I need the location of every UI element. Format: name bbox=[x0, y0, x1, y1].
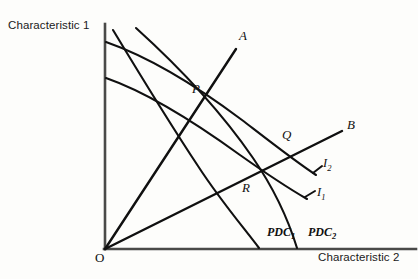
y-axis-label: Characteristic 1 bbox=[8, 19, 90, 31]
point-r-label: R bbox=[242, 180, 250, 196]
rays-group bbox=[105, 49, 342, 249]
pdc-curve-2-label: PDC2 bbox=[308, 225, 336, 241]
pdc-curves-group bbox=[113, 28, 297, 248]
axes-group bbox=[104, 24, 416, 249]
indifference-curve-i2 bbox=[106, 42, 316, 175]
pdc-curve-1 bbox=[113, 30, 259, 248]
ray-b bbox=[105, 131, 342, 249]
pdc1-base: PDC bbox=[267, 225, 291, 239]
indifference-curve-i1-label: I1 bbox=[317, 185, 325, 202]
indifference-curve-i2-label: I2 bbox=[323, 156, 331, 173]
point-p-label: P bbox=[192, 81, 200, 97]
pdc1-subscript: 1 bbox=[291, 231, 295, 241]
pdc2-subscript: 2 bbox=[332, 231, 336, 241]
indifference-curves-group bbox=[106, 42, 316, 199]
pdc-curve-1-label: PDC1 bbox=[267, 225, 295, 241]
diagram-canvas bbox=[0, 0, 418, 279]
characteristics-diagram: Characteristic 1 Characteristic 2 O A B … bbox=[0, 0, 418, 279]
ray-a-label: A bbox=[239, 28, 247, 44]
ray-b-label: B bbox=[347, 117, 355, 133]
i2-subscript: 2 bbox=[327, 163, 331, 173]
point-q-label: Q bbox=[282, 127, 291, 143]
x-axis-label: Characteristic 2 bbox=[318, 251, 400, 263]
pdc2-base: PDC bbox=[308, 225, 332, 239]
i1-leader bbox=[305, 191, 315, 197]
origin-label: O bbox=[95, 250, 104, 266]
i1-subscript: 1 bbox=[321, 192, 325, 202]
i2-leader bbox=[313, 166, 322, 173]
ray-a bbox=[105, 49, 236, 249]
